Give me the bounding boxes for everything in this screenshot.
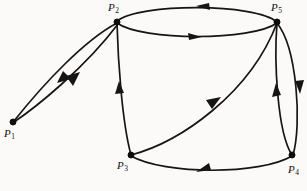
node-dot-p4[interactable] bbox=[289, 152, 295, 158]
node-label-subscript: 4 bbox=[295, 168, 299, 177]
node-dot-p2[interactable] bbox=[114, 19, 120, 25]
node-label-subscript: 3 bbox=[124, 164, 128, 173]
node-label-base: P bbox=[271, 1, 278, 13]
node-label-p2: P2 bbox=[108, 2, 119, 13]
edge-path bbox=[117, 8, 277, 22]
node-label-base: P bbox=[108, 1, 115, 13]
node-label-p1: P1 bbox=[4, 128, 15, 139]
arrowhead-left bbox=[196, 3, 210, 10]
edge-path bbox=[131, 156, 292, 170]
node-dot-p5[interactable] bbox=[274, 19, 280, 25]
edge-path bbox=[14, 24, 118, 122]
edge-p1-to-p2 bbox=[14, 24, 118, 122]
edge-path bbox=[131, 23, 277, 155]
edge-p3-to-p5 bbox=[131, 23, 277, 155]
node-label-base: P bbox=[288, 163, 295, 175]
edge-p5-to-p4 bbox=[277, 23, 304, 155]
node-label-p5: P5 bbox=[271, 2, 282, 13]
edge-path bbox=[277, 23, 297, 155]
directed-graph-figure: P1 P2 P3 P4 P5 bbox=[0, 0, 307, 191]
arrowhead-right bbox=[188, 33, 202, 40]
node-label-base: P bbox=[4, 127, 11, 139]
edge-p5-to-p2 bbox=[117, 3, 277, 22]
arrowhead-up bbox=[115, 81, 124, 94]
node-label-subscript: 5 bbox=[278, 6, 282, 15]
edge-p4-to-p3 bbox=[131, 156, 292, 172]
node-dot-p1[interactable] bbox=[10, 119, 16, 125]
node-label-subscript: 2 bbox=[115, 6, 119, 15]
node-dot-p3[interactable] bbox=[128, 152, 134, 158]
node-label-p3: P3 bbox=[117, 160, 128, 171]
node-label-subscript: 1 bbox=[11, 132, 15, 141]
node-label-base: P bbox=[117, 159, 124, 171]
arrowhead-up bbox=[272, 83, 281, 97]
graph-canvas bbox=[0, 0, 307, 191]
edge-p4-to-p5 bbox=[272, 23, 292, 155]
edge-path bbox=[117, 23, 277, 37]
edge-p2-to-p1 bbox=[14, 23, 117, 121]
edge-path bbox=[14, 23, 117, 121]
edge-p3-to-p2 bbox=[115, 23, 131, 155]
edge-p2-to-p5 bbox=[117, 23, 277, 40]
arrowhead-up-right bbox=[206, 97, 221, 109]
node-label-p4: P4 bbox=[288, 164, 299, 175]
